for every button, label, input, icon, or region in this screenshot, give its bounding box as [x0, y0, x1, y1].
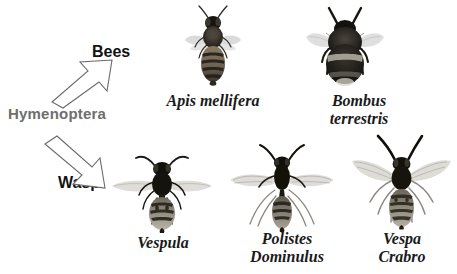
hymenoptera-classification-figure: Hymenoptera Bees Wasp — [0, 0, 457, 274]
specimen-image-vespula — [110, 146, 214, 234]
specimen-caption-vespa-crabro: Vespa Crabro — [348, 230, 456, 266]
specimen-caption-vespula: Vespula — [108, 234, 218, 252]
specimen-image-vespa-crabro — [348, 134, 454, 230]
arrow-up-right-to-bees — [50, 58, 128, 114]
specimen-image-polistes-dominulus — [228, 142, 336, 234]
specimen-caption-polistes-dominulus: Polistes Dominulus — [228, 230, 346, 266]
specimen-caption-bombus-terrestris: Bombus terrestris — [300, 92, 418, 128]
specimen-image-bombus-terrestris — [305, 4, 385, 88]
specimen-image-apis-mellifera — [184, 4, 242, 88]
specimen-caption-apis-mellifera: Apis mellifera — [150, 92, 276, 110]
